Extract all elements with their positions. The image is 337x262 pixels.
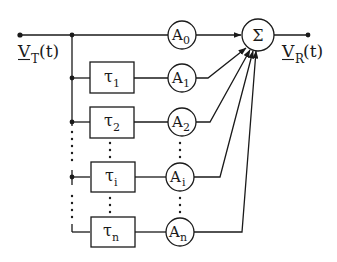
svg-text:0: 0 [183, 34, 190, 47]
svg-text:τ: τ [104, 111, 113, 130]
a1-to-sum-arrow [196, 48, 246, 78]
gain-label-0: A 0 [171, 26, 190, 47]
output-signal-label: V R (t) [281, 41, 323, 66]
svg-text:T: T [31, 52, 39, 66]
svg-text:1: 1 [183, 77, 190, 90]
svg-text:τ: τ [105, 166, 114, 185]
svg-text:i: i [114, 176, 118, 189]
junction-dot [70, 120, 75, 125]
svg-text:A: A [171, 26, 183, 44]
delay-label-2: τ 2 [104, 111, 120, 134]
sigma-symbol: Σ [252, 26, 263, 45]
a2-to-sum-arrow [196, 50, 250, 122]
svg-text:A: A [171, 69, 183, 87]
output-terminal-dot [306, 33, 311, 38]
svg-text:(t): (t) [303, 41, 323, 61]
svg-text:V: V [281, 41, 295, 61]
junction-dot [70, 33, 75, 38]
svg-text:V: V [17, 41, 31, 61]
ai-to-sum-arrow [194, 51, 253, 177]
svg-text:A: A [171, 113, 183, 131]
svg-text:τ: τ [104, 67, 113, 86]
svg-text:A: A [169, 168, 181, 186]
svg-text:2: 2 [113, 121, 120, 134]
delay-label-1: τ 1 [104, 67, 120, 90]
input-signal-label: V T (t) [17, 41, 59, 66]
gain-label-i: A i [169, 168, 186, 189]
svg-text:2: 2 [183, 121, 190, 134]
svg-text:τ: τ [103, 221, 112, 240]
gain-label-2: A 2 [171, 113, 190, 134]
gain-label-n: A n [168, 223, 187, 244]
delay-label-n: τ n [103, 221, 119, 244]
delay-label-i: τ i [105, 166, 118, 189]
svg-text:n: n [180, 231, 187, 244]
diagram-canvas: V T (t) V R (t) Σ τ 1 τ 2 τ i τ n A 0 A … [0, 0, 337, 262]
junction-dot [70, 76, 75, 81]
delay-line-diagram: V T (t) V R (t) Σ τ 1 τ 2 τ i τ n A 0 A … [0, 0, 337, 262]
svg-text:i: i [182, 176, 186, 189]
gain-label-1: A 1 [171, 69, 190, 90]
junction-dot [70, 175, 75, 180]
input-terminal-dot [17, 32, 22, 37]
svg-text:A: A [168, 223, 180, 241]
svg-text:(t): (t) [39, 41, 59, 61]
svg-text:n: n [112, 231, 119, 244]
svg-text:1: 1 [113, 77, 120, 90]
